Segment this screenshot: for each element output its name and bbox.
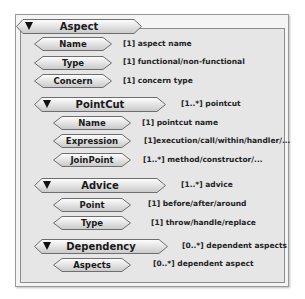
attribute-label: Type (53, 216, 131, 230)
group-header-pointcut[interactable]: PointCut (34, 97, 166, 112)
attribute-node-type[interactable]: Type (34, 56, 112, 70)
attribute-node-concern[interactable]: Concern (34, 74, 112, 88)
attribute-node-advice-type[interactable]: Type (53, 216, 131, 230)
group-header-label: Dependency (34, 239, 168, 254)
attribute-desc: [1] throw/handle/replace (151, 218, 256, 228)
attribute-node-name[interactable]: Name (34, 37, 112, 51)
attribute-label: Aspects (53, 258, 131, 272)
attribute-desc: [1..*] method/constructor/... (143, 155, 263, 165)
attribute-label: Concern (34, 74, 112, 88)
attribute-label: Type (34, 56, 112, 70)
group-header-advice[interactable]: Advice (34, 178, 166, 193)
attribute-node-joinpoint[interactable]: JoinPoint (53, 153, 131, 167)
attribute-desc: [1] before/after/around (148, 199, 246, 209)
group-desc: [1..*] pointcut (181, 99, 241, 109)
attribute-label: Name (53, 116, 131, 130)
attribute-desc: [1] aspect name (123, 39, 192, 49)
group-desc: [0..*] dependent aspects (182, 241, 287, 251)
attribute-label: JoinPoint (53, 153, 131, 167)
attribute-desc: [1]execution/call/within/handler/... (144, 136, 290, 146)
attribute-node-point[interactable]: Point (53, 198, 131, 212)
attribute-label: Name (34, 37, 112, 51)
attribute-label: Expression (53, 134, 131, 148)
attribute-desc: [0..*] dependent aspect (153, 259, 254, 269)
aspect-header[interactable]: Aspect (16, 19, 142, 34)
group-header-label: PointCut (34, 97, 166, 112)
aspect-header-label: Aspect (16, 19, 142, 34)
attribute-node-aspects[interactable]: Aspects (53, 258, 131, 272)
attribute-desc: [1] concern type (123, 76, 193, 86)
attribute-node-expression[interactable]: Expression (53, 134, 131, 148)
attribute-label: Point (53, 198, 131, 212)
group-desc: [1..*] advice (181, 180, 233, 190)
attribute-desc: [1] functional/non-functional (123, 57, 245, 67)
group-header-dependency[interactable]: Dependency (34, 239, 168, 254)
group-header-label: Advice (34, 178, 166, 193)
attribute-desc: [1] pointcut name (142, 118, 218, 128)
attribute-node-pointcut-name[interactable]: Name (53, 116, 131, 130)
